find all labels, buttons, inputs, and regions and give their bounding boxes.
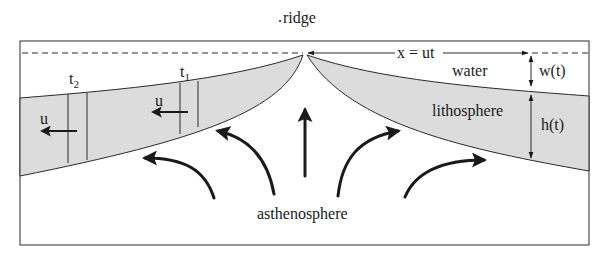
velocity-label-left-outer: u [40,110,48,127]
thickness-label: h(t) [541,116,564,134]
asthenosphere-label: asthenosphere [257,205,348,223]
distance-label: x = ut [397,44,435,61]
velocity-label-left-inner: u [155,92,163,109]
ridge-label: ridge [283,9,316,27]
ridge-dot: . [278,8,282,25]
water-label: water [452,62,488,79]
lithosphere-label: lithosphere [432,102,503,120]
water-depth-label: w(t) [539,62,566,80]
seafloor-spreading-diagram: . ridge x = ut water w(t) lithosphere h(… [0,0,611,257]
